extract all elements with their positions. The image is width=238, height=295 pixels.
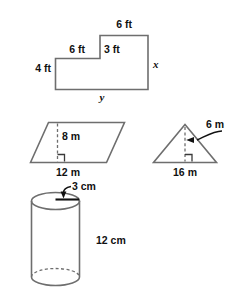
- cylinder-radius-arrowhead-icon: [61, 192, 67, 199]
- figure-triangle: 6 m 16 m: [154, 118, 225, 178]
- cylinder-radius-label: 3 cm: [72, 180, 96, 192]
- l-shape-top-left-label: 6 ft: [69, 43, 85, 55]
- l-shape-right-vertical-label: x: [152, 58, 159, 70]
- cylinder-height-label: 12 cm: [96, 234, 126, 246]
- l-shape-step-vertical-label: 3 ft: [104, 43, 120, 55]
- figures-canvas: 6 ft 6 ft 3 ft 4 ft x y 8 m 12 m 6 m 16 …: [0, 0, 238, 295]
- parallelogram-base-label: 12 m: [56, 166, 80, 178]
- triangle-base-label: 16 m: [173, 166, 197, 178]
- cylinder-bottom-back-arc-dashed: [32, 269, 80, 278]
- triangle-right-angle-marker: [185, 155, 192, 162]
- l-shape-left-vertical-label: 4 ft: [35, 62, 51, 74]
- figure-parallelogram: 8 m 12 m: [31, 123, 125, 179]
- parallelogram-outline: [31, 123, 125, 163]
- figure-sheet: 6 ft 6 ft 3 ft 4 ft x y 8 m 12 m 6 m 16 …: [0, 0, 238, 295]
- parallelogram-right-angle-marker: [58, 155, 65, 162]
- cylinder-top-ellipse: [32, 193, 80, 210]
- l-shape-top-right-label: 6 ft: [116, 18, 132, 30]
- figure-l-shape: 6 ft 6 ft 3 ft 4 ft x y: [35, 18, 159, 103]
- triangle-height-label: 6 m: [206, 118, 224, 130]
- triangle-height-leader-arrow: [197, 131, 222, 140]
- parallelogram-height-label: 8 m: [62, 130, 80, 142]
- triangle-height-arrowhead-icon: [186, 137, 194, 143]
- cylinder-bottom-front-arc: [32, 277, 80, 286]
- l-shape-bottom-label: y: [98, 91, 105, 103]
- figure-cylinder: 3 cm 12 cm: [32, 180, 126, 286]
